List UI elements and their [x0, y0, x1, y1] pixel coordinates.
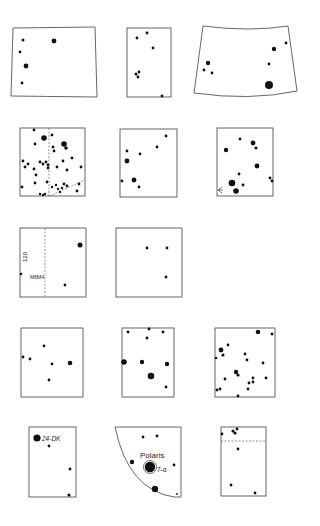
star-dot [248, 382, 251, 385]
star-dot [39, 193, 41, 195]
star-dot [237, 448, 240, 451]
star-dot [33, 129, 36, 132]
star-dot [24, 166, 27, 169]
chart-panel-r5c2: Polaris7-α [115, 427, 181, 497]
star-dot [61, 141, 67, 147]
star-dot [34, 182, 37, 185]
panel-frame [127, 28, 171, 97]
star-dot [238, 173, 241, 176]
chart-label: 24-DK [41, 435, 61, 442]
star-dot [251, 141, 256, 146]
star-dot [152, 486, 158, 492]
star-dot [22, 356, 25, 359]
star-dot [268, 63, 271, 66]
star-dot [165, 276, 168, 279]
star-dot [239, 138, 242, 141]
star-dot [52, 39, 57, 44]
star-dot [39, 161, 42, 164]
star-dot [53, 150, 56, 153]
star-dot [126, 150, 129, 153]
star-dot [130, 460, 134, 464]
star-dot [61, 187, 63, 189]
star-dot [69, 468, 72, 471]
star-dot [254, 146, 257, 149]
star-dot [139, 153, 142, 156]
panel-frame [194, 26, 297, 97]
star-dot [148, 328, 151, 331]
star-dot [224, 148, 228, 152]
star-dot [51, 134, 54, 137]
star-dot [64, 284, 67, 287]
star-dot [221, 353, 224, 356]
chart-panel-r1c3 [194, 26, 297, 97]
chart-label: 7-α [157, 466, 167, 473]
star-dot [55, 184, 57, 186]
star-dot [156, 146, 159, 149]
star-dot [262, 362, 265, 365]
star-dot [138, 186, 141, 189]
star-dot [156, 435, 159, 438]
star-dot [67, 493, 70, 496]
star-dot [21, 186, 24, 189]
star-dot [80, 166, 83, 169]
star-dot [227, 344, 230, 347]
star-dot [46, 181, 49, 184]
star-dot [216, 389, 219, 392]
star-dot [165, 135, 168, 138]
star-dot [165, 362, 169, 366]
star-dot [33, 168, 36, 171]
star-dot [63, 183, 66, 186]
star-dot [51, 186, 53, 188]
star-dot [138, 71, 141, 74]
star-dot [236, 373, 239, 376]
panel-frame [215, 328, 275, 397]
star-dot [135, 73, 138, 76]
star-dot [265, 377, 268, 380]
star-dot [121, 180, 124, 183]
chart-panel-r4c2 [121, 328, 174, 397]
star-dot [224, 378, 227, 381]
star-dot [68, 361, 73, 366]
chart-label: 120 [22, 251, 28, 262]
star-dot [66, 169, 69, 172]
star-dot [47, 167, 50, 170]
panel-frame [115, 427, 181, 497]
star-dot [48, 445, 51, 448]
star-dot [142, 436, 145, 439]
chart-panel-r2c1 [20, 128, 85, 196]
star-dot [166, 247, 169, 250]
star-dot [173, 464, 176, 467]
star-dot [42, 163, 45, 166]
star-dot [252, 377, 255, 380]
star-dot [237, 395, 240, 398]
star-dot [285, 42, 288, 45]
chart-panel-r5c3 [221, 427, 266, 496]
star-dot [252, 381, 255, 384]
star-dot [57, 188, 59, 190]
star-dot [146, 32, 149, 35]
star-dot [256, 330, 261, 335]
star-dot [27, 163, 30, 166]
star-dot [125, 159, 130, 164]
chart-panel-r1c2 [127, 28, 171, 97]
star-dot [35, 174, 38, 177]
star-dot [29, 358, 32, 361]
star-dot [215, 357, 218, 360]
star-dot [64, 146, 68, 150]
chart-panel-r3c1: 120M8M4 [20, 228, 86, 297]
star-dot [136, 37, 139, 40]
star-dot [22, 39, 25, 42]
star-dot [229, 180, 236, 187]
star-dot [146, 337, 149, 340]
star-dot [121, 359, 127, 365]
chart-panel-r4c1 [21, 328, 83, 397]
star-dot [56, 166, 59, 169]
star-dot [62, 160, 65, 163]
star-dot [148, 373, 155, 380]
star-dot [247, 388, 250, 391]
star-dot [52, 146, 55, 149]
star-dot [165, 386, 168, 389]
star-dot [219, 348, 224, 353]
star-dot [219, 388, 222, 391]
panel-frame [20, 228, 86, 297]
